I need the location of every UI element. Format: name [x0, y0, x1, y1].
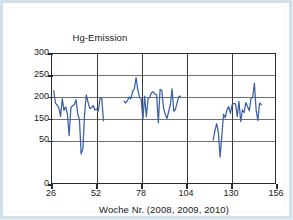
x-axis-tick-label: 104 [166, 188, 206, 198]
x-axis-tick-label: 156 [256, 188, 292, 198]
x-axis-tick-label: 78 [121, 188, 161, 198]
x-axis-tick-label: 26 [31, 188, 71, 198]
figure-inner-frame: Hg-Emission µg/Nm3 050150200250300 26527… [7, 7, 285, 212]
x-axis-tick-label: 52 [76, 188, 116, 198]
x-axis-tick-labels: 265278104130156 [8, 8, 292, 219]
x-axis-title: Woche Nr. (2008, 2009, 2010) [51, 204, 277, 215]
figure-card: Hg-Emission µg/Nm3 050150200250300 26527… [0, 0, 292, 219]
x-axis-tick-label: 130 [211, 188, 251, 198]
